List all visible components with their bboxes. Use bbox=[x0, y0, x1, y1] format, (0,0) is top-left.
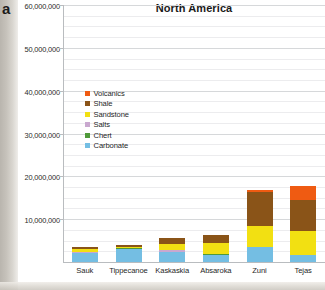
bar-segment-shale bbox=[290, 200, 316, 231]
scan-gutter-strip bbox=[0, 0, 18, 290]
legend-item-shale[interactable]: Shale bbox=[85, 99, 129, 110]
y-axis-tick-label: 50,000,000 bbox=[25, 44, 61, 53]
legend-item-volcanics[interactable]: Volcanics bbox=[85, 88, 129, 99]
legend-swatch-icon bbox=[85, 112, 90, 117]
chart-legend: VolcanicsShaleSandstoneSaltsChertCarbona… bbox=[85, 88, 129, 151]
gridline-minor bbox=[63, 187, 325, 188]
legend-item-label: Carbonate bbox=[94, 141, 129, 150]
x-axis-tick-label: Tippecanoe bbox=[107, 266, 151, 275]
y-axis-labels: 60,000,00050,000,00040,000,00030,000,000… bbox=[18, 5, 60, 262]
bar-segment-carbonate bbox=[116, 249, 142, 262]
legend-swatch-icon bbox=[85, 91, 90, 96]
legend-item-salts[interactable]: Salts bbox=[85, 120, 129, 131]
bar-zuni[interactable] bbox=[247, 190, 273, 262]
chart-canvas: North America 60,000,00050,000,00040,000… bbox=[18, 0, 325, 290]
y-axis-tick-label: 10,000,000 bbox=[25, 216, 61, 225]
y-axis-tick-mark bbox=[59, 134, 63, 135]
bar-sauk[interactable] bbox=[72, 247, 98, 262]
gridline-minor bbox=[63, 59, 325, 60]
bar-segment-carbonate bbox=[290, 255, 316, 262]
legend-item-label: Volcanics bbox=[94, 89, 125, 98]
bar-segment-shale bbox=[247, 192, 273, 226]
gridline-major bbox=[63, 219, 325, 220]
gridline-minor bbox=[63, 37, 325, 38]
gridline-minor bbox=[63, 230, 325, 231]
legend-item-label: Chert bbox=[94, 131, 112, 140]
bar-segment-volcanics bbox=[290, 186, 316, 201]
x-axis-tick-label: Kaskaskia bbox=[150, 266, 194, 275]
legend-swatch-icon bbox=[85, 143, 90, 148]
bar-tejas[interactable] bbox=[290, 186, 316, 262]
gridline-minor bbox=[63, 155, 325, 156]
gridline-minor bbox=[63, 241, 325, 242]
y-axis-tick-mark bbox=[59, 91, 63, 92]
bar-segment-shale bbox=[203, 235, 229, 243]
legend-swatch-icon bbox=[85, 133, 90, 138]
plot-area: VolcanicsShaleSandstoneSaltsChertCarbona… bbox=[63, 5, 325, 262]
gridline-major bbox=[63, 176, 325, 177]
y-axis-tick-mark bbox=[59, 48, 63, 49]
bar-absaroka[interactable] bbox=[203, 235, 229, 262]
legend-item-label: Sandstone bbox=[94, 110, 129, 119]
legend-item-chert[interactable]: Chert bbox=[85, 130, 129, 141]
bar-segment-sandstone bbox=[247, 226, 273, 247]
bar-segment-carbonate bbox=[203, 255, 229, 262]
bar-segment-sandstone bbox=[290, 231, 316, 255]
bar-tippecanoe[interactable] bbox=[116, 245, 142, 262]
x-axis-tick-label: Tejas bbox=[281, 266, 325, 275]
x-axis-tick-label: Sauk bbox=[63, 266, 107, 275]
y-axis-tick-label: 60,000,000 bbox=[25, 2, 61, 11]
gridline-minor bbox=[63, 251, 325, 252]
y-axis-tick-mark bbox=[59, 5, 63, 6]
y-axis-tick-label: 20,000,000 bbox=[25, 173, 61, 182]
legend-swatch-icon bbox=[85, 101, 90, 106]
bar-segment-carbonate bbox=[247, 247, 273, 262]
y-axis-tick-mark bbox=[59, 219, 63, 220]
x-axis-tick-label: Absaroka bbox=[194, 266, 238, 275]
gridline-major bbox=[63, 48, 325, 49]
y-axis-tick-label: 30,000,000 bbox=[25, 130, 61, 139]
bottom-scan-strip bbox=[0, 282, 325, 290]
figure-panel: a North America 60,000,00050,000,00040,0… bbox=[0, 0, 325, 290]
gridline-minor bbox=[63, 69, 325, 70]
gridline-minor bbox=[63, 16, 325, 17]
y-axis-line bbox=[63, 5, 64, 262]
x-axis-labels: SaukTippecanoeKaskaskiaAbsarokaZuniTejas bbox=[63, 264, 325, 280]
gridline-minor bbox=[63, 198, 325, 199]
gridline-minor bbox=[63, 26, 325, 27]
y-axis-tick-mark bbox=[59, 176, 63, 177]
bar-kaskaskia[interactable] bbox=[159, 238, 185, 262]
gridline-minor bbox=[63, 208, 325, 209]
legend-item-carbonate[interactable]: Carbonate bbox=[85, 141, 129, 152]
gridline-major bbox=[63, 5, 325, 6]
gridline-minor bbox=[63, 166, 325, 167]
gridline-minor bbox=[63, 80, 325, 81]
panel-letter: a bbox=[2, 1, 10, 16]
x-axis-line bbox=[63, 262, 325, 263]
legend-item-label: Shale bbox=[94, 99, 113, 108]
bar-segment-sandstone bbox=[203, 243, 229, 254]
x-axis-tick-label: Zuni bbox=[238, 266, 282, 275]
legend-swatch-icon bbox=[85, 122, 90, 127]
bar-segment-carbonate bbox=[159, 252, 185, 262]
y-axis-tick-label: 40,000,000 bbox=[25, 87, 61, 96]
bar-segment-carbonate bbox=[72, 253, 98, 262]
legend-item-sandstone[interactable]: Sandstone bbox=[85, 109, 129, 120]
legend-item-label: Salts bbox=[94, 120, 110, 129]
